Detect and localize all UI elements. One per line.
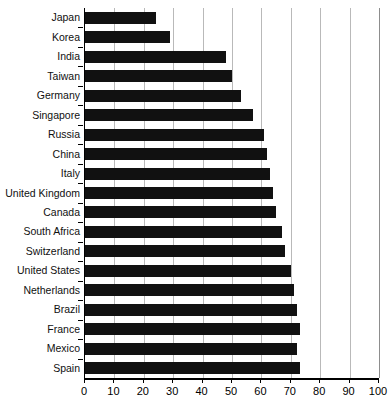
category-label: Korea xyxy=(0,32,80,43)
x-axis-tick xyxy=(202,378,203,383)
category-axis-tick xyxy=(78,281,83,282)
bar xyxy=(85,109,253,121)
bar xyxy=(85,187,273,199)
x-axis-tick-label: 50 xyxy=(225,385,237,397)
category-axis-tick xyxy=(78,105,83,106)
category-label: Russia xyxy=(0,129,80,140)
category-label: Mexico xyxy=(0,343,80,354)
category-axis-tick xyxy=(78,339,83,340)
x-axis-tick-label: 90 xyxy=(342,385,354,397)
bar xyxy=(85,51,226,63)
bar xyxy=(85,129,264,141)
category-label: Germany xyxy=(0,90,80,101)
category-axis-tick xyxy=(78,242,83,243)
category-label: Singapore xyxy=(0,110,80,121)
x-axis-tick xyxy=(172,378,173,383)
category-label: India xyxy=(0,51,80,62)
category-label: Switzerland xyxy=(0,246,80,257)
bar xyxy=(85,168,270,180)
category-label: South Africa xyxy=(0,226,80,237)
bar xyxy=(85,12,156,24)
x-axis-tick-label: 0 xyxy=(81,385,87,397)
bar xyxy=(85,343,297,355)
x-axis-tick xyxy=(319,378,320,383)
bar xyxy=(85,265,291,277)
category-axis-tick xyxy=(78,222,83,223)
x-axis-tick xyxy=(290,378,291,383)
x-axis-tick xyxy=(260,378,261,383)
x-axis-tick xyxy=(143,378,144,383)
category-label: Netherlands xyxy=(0,285,80,296)
category-axis-tick xyxy=(78,300,83,301)
category-axis-tick xyxy=(78,86,83,87)
category-label: France xyxy=(0,324,80,335)
bar xyxy=(85,70,232,82)
bar-chart: JapanKoreaIndiaTaiwanGermanySingaporeRus… xyxy=(0,0,390,410)
bar xyxy=(85,245,285,257)
x-axis-tick-label: 30 xyxy=(166,385,178,397)
category-axis-tick xyxy=(78,320,83,321)
x-axis-tick xyxy=(231,378,232,383)
bar xyxy=(85,148,267,160)
x-axis-tick-label: 70 xyxy=(284,385,296,397)
bar xyxy=(85,206,276,218)
category-axis-labels: JapanKoreaIndiaTaiwanGermanySingaporeRus… xyxy=(0,8,80,378)
x-axis-tick-label: 100 xyxy=(369,385,387,397)
bar xyxy=(85,304,297,316)
x-axis-tick-label: 60 xyxy=(254,385,266,397)
category-axis-tick xyxy=(78,164,83,165)
x-axis-tick-label: 10 xyxy=(107,385,119,397)
category-axis-tick xyxy=(78,359,83,360)
category-label: China xyxy=(0,149,80,160)
category-label: Japan xyxy=(0,12,80,23)
category-axis-tick xyxy=(78,261,83,262)
category-label: Taiwan xyxy=(0,71,80,82)
category-axis-tick xyxy=(78,183,83,184)
category-label: Brazil xyxy=(0,304,80,315)
x-axis-tick xyxy=(84,378,85,383)
category-axis-tick xyxy=(78,144,83,145)
category-axis-tick xyxy=(78,203,83,204)
category-label: Italy xyxy=(0,168,80,179)
bar xyxy=(85,284,294,296)
bar xyxy=(85,323,300,335)
category-axis-tick xyxy=(78,66,83,67)
category-axis-tick xyxy=(78,125,83,126)
category-label: Spain xyxy=(0,363,80,374)
gridline xyxy=(379,8,380,378)
category-label: Canada xyxy=(0,207,80,218)
category-axis-tick xyxy=(78,27,83,28)
gridline xyxy=(320,8,321,378)
bar xyxy=(85,362,300,374)
category-label: United States xyxy=(0,265,80,276)
bar xyxy=(85,31,170,43)
clipped-chart-title xyxy=(84,0,304,3)
x-axis-tick xyxy=(349,378,350,383)
bar xyxy=(85,90,241,102)
category-axis-tick xyxy=(78,47,83,48)
x-axis-tick-label: 40 xyxy=(195,385,207,397)
x-axis-tick xyxy=(113,378,114,383)
x-axis-tick-label: 20 xyxy=(137,385,149,397)
bar xyxy=(85,226,282,238)
category-label: United Kingdom xyxy=(0,188,80,199)
x-axis-tick-label: 80 xyxy=(313,385,325,397)
plot-area xyxy=(84,8,379,378)
x-axis-tick xyxy=(378,378,379,383)
gridline xyxy=(350,8,351,378)
